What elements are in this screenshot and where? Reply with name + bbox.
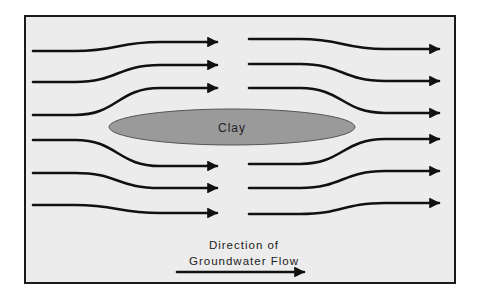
groundwater-flow-diagram: Clay Direction of Groundwater Flow	[0, 0, 480, 299]
clay-label: Clay	[218, 121, 246, 135]
legend-line-2: Groundwater Flow	[189, 255, 299, 267]
legend-line-1: Direction of	[209, 239, 279, 251]
